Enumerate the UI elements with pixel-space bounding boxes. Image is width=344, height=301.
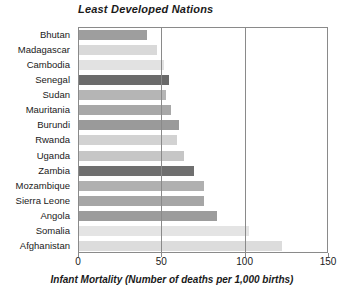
chart-container: Least Developed Nations BhutanMadagascar… (0, 0, 344, 301)
bar[interactable] (79, 196, 204, 206)
y-axis-label: Angola (0, 208, 74, 223)
bar-rows (79, 28, 327, 252)
bar[interactable] (79, 211, 217, 221)
bar[interactable] (79, 120, 179, 130)
x-axis-tick-label: 0 (75, 256, 81, 267)
y-axis-label: Cambodia (0, 57, 74, 72)
y-axis-category-labels: BhutanMadagascarCambodiaSenegalSudanMaur… (0, 27, 74, 253)
bar[interactable] (79, 90, 166, 100)
gridline (161, 28, 162, 252)
chart-title: Least Developed Nations (78, 3, 213, 15)
y-axis-label: Bhutan (0, 27, 74, 42)
y-axis-label: Burundi (0, 117, 74, 132)
x-axis-tick-label: 150 (320, 256, 337, 267)
bar-row (79, 88, 327, 103)
y-axis-label: Somalia (0, 223, 74, 238)
bar[interactable] (79, 151, 184, 161)
bar[interactable] (79, 30, 147, 40)
y-axis-label: Mozambique (0, 178, 74, 193)
gridline (245, 28, 246, 252)
y-axis-label: Zambia (0, 163, 74, 178)
bar-row (79, 194, 327, 209)
y-axis-label: Rwanda (0, 132, 74, 147)
x-axis-tick-label: 50 (156, 256, 167, 267)
x-axis-tick-label: 100 (236, 256, 253, 267)
bar-row (79, 118, 327, 133)
bar-row (79, 164, 327, 179)
y-axis-label: Afghanistan (0, 238, 74, 253)
bar-row (79, 73, 327, 88)
bar-row (79, 58, 327, 73)
y-axis-label: Uganda (0, 148, 74, 163)
bar-row (79, 103, 327, 118)
bar-row (79, 179, 327, 194)
bar[interactable] (79, 166, 194, 176)
bar[interactable] (79, 226, 249, 236)
y-axis-label: Senegal (0, 72, 74, 87)
bar[interactable] (79, 45, 157, 55)
plot-area (78, 27, 328, 253)
bar-row (79, 28, 327, 43)
y-axis-label: Sudan (0, 87, 74, 102)
bar-row (79, 209, 327, 224)
bar-row (79, 149, 327, 164)
bar-row (79, 133, 327, 148)
bar[interactable] (79, 135, 177, 145)
x-axis-title: Infant Mortality (Number of deaths per 1… (0, 274, 344, 285)
bar[interactable] (79, 75, 169, 85)
y-axis-label: Sierra Leone (0, 193, 74, 208)
y-axis-label: Madagascar (0, 42, 74, 57)
bar-row (79, 43, 327, 58)
bar[interactable] (79, 241, 282, 251)
bar-row (79, 224, 327, 239)
bar-row (79, 239, 327, 254)
y-axis-label: Mauritania (0, 102, 74, 117)
bar[interactable] (79, 181, 204, 191)
bar[interactable] (79, 60, 164, 70)
bar[interactable] (79, 105, 171, 115)
